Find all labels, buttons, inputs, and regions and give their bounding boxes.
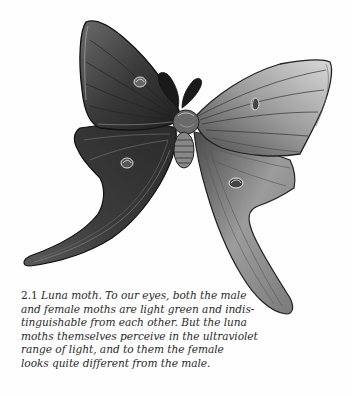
figure-number: 2.1 bbox=[21, 289, 38, 301]
caption-line-4: moths themselves perceive in the ultravi… bbox=[21, 330, 256, 344]
figure-caption: 2.1 Luna moth. To our eyes, both the mal… bbox=[21, 289, 256, 371]
caption-line-1: 2.1 Luna moth. To our eyes, both the mal… bbox=[21, 289, 256, 303]
caption-line-3: tinguishable from each other. But the lu… bbox=[21, 316, 256, 330]
caption-line-5: range of light, and to them the female bbox=[21, 343, 256, 357]
caption-line-6: looks quite different from the male. bbox=[21, 357, 256, 371]
luna-moth-illustration bbox=[0, 0, 352, 320]
right-hindwing bbox=[194, 132, 295, 314]
right-forewing bbox=[194, 60, 332, 156]
caption-line-2: and female moths are light green and ind… bbox=[21, 303, 256, 317]
left-hindwing bbox=[24, 124, 176, 267]
